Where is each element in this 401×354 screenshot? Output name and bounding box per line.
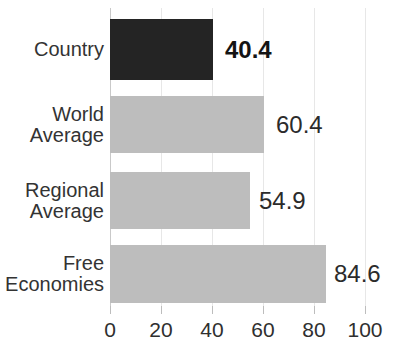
bar-chart: 0 20 40 60 80 100 Country 40.4 World Ave… <box>0 0 401 354</box>
category-label-regional-average: Regional Average <box>25 180 104 222</box>
value-label-country: 40.4 <box>225 36 272 64</box>
x-axis-tick-label-20: 20 <box>149 318 172 342</box>
value-label-free-economies: 84.6 <box>334 260 381 288</box>
category-label-free-economies: Free Economies <box>5 253 104 295</box>
bar-regional-average <box>110 172 250 229</box>
tick-mark-100 <box>365 306 366 314</box>
bar-country <box>110 19 213 80</box>
x-axis-tick-label-80: 80 <box>302 318 325 342</box>
bar-free-economies <box>110 245 326 303</box>
x-axis-tick-label-100: 100 <box>347 318 382 342</box>
x-axis-tick-label-60: 60 <box>251 318 274 342</box>
tick-mark-80 <box>314 306 315 314</box>
value-label-world-average: 60.4 <box>276 111 323 139</box>
x-axis-tick-label-0: 0 <box>104 318 116 342</box>
tick-mark-20 <box>161 306 162 314</box>
value-label-regional-average: 54.9 <box>259 187 306 215</box>
tick-mark-0 <box>110 306 111 314</box>
x-axis-tick-label-40: 40 <box>200 318 223 342</box>
bar-world-average <box>110 96 264 153</box>
tick-mark-40 <box>212 306 213 314</box>
category-label-country: Country <box>34 39 104 60</box>
category-label-world-average: World Average <box>30 104 104 146</box>
tick-mark-60 <box>263 306 264 314</box>
